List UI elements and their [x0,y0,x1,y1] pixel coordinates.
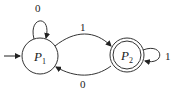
transition-p2-p2-label: 1 [165,50,171,62]
transition-p1-p2 [55,34,111,46]
transition-p1-p1-label: 0 [35,2,41,14]
state-p2-label: P [120,48,129,63]
automaton-diagram: P 1 0 P 2 1 1 0 [0,0,177,91]
state-p2: P 2 [110,38,144,72]
transition-p1-p2-label: 1 [80,21,86,33]
state-p1-label: P [33,49,42,64]
transition-p2-p2 [143,48,160,61]
state-p1: P 1 [22,38,58,74]
transition-p1-p1 [33,21,47,39]
transition-p2-p1 [56,66,111,75]
state-p2-subscript: 2 [129,56,133,65]
transition-p2-p1-label: 0 [80,78,86,90]
state-p1-subscript: 1 [42,57,46,66]
